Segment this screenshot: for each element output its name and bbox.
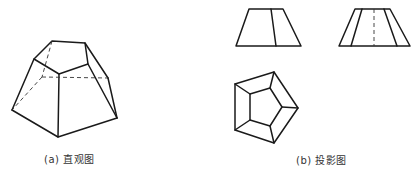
caption-projections: (b) 投影图	[296, 152, 347, 167]
bottom-edge-right-back	[108, 78, 117, 118]
caption-pictorial: (a) 直观图	[44, 151, 95, 166]
top-view-edge-3	[282, 107, 298, 108]
side-view	[339, 9, 410, 46]
front-view	[236, 9, 301, 46]
figure-canvas	[0, 0, 420, 176]
hidden-bottom-edge-left	[12, 77, 42, 110]
pictorial-view	[12, 41, 117, 137]
top-view-edge-4	[270, 126, 274, 143]
top-view	[235, 72, 298, 143]
front-view-edge	[271, 9, 276, 46]
lateral-edge-left	[12, 59, 34, 110]
lateral-edge-back-right	[85, 43, 108, 78]
side-view-edge-right	[384, 9, 397, 46]
lateral-edge-right	[88, 64, 117, 118]
top-view-edge-2	[270, 72, 274, 88]
front-view-outline	[236, 9, 301, 46]
top-view-inner-pentagon	[250, 88, 282, 126]
top-face	[34, 41, 88, 74]
side-view-outline	[339, 9, 410, 46]
top-view-edge-1	[235, 84, 250, 94]
top-view-edge-5	[235, 120, 250, 130]
bottom-visible-edges	[12, 110, 117, 137]
hidden-bottom-edge-back	[42, 77, 108, 78]
lateral-edge-front	[58, 74, 59, 137]
